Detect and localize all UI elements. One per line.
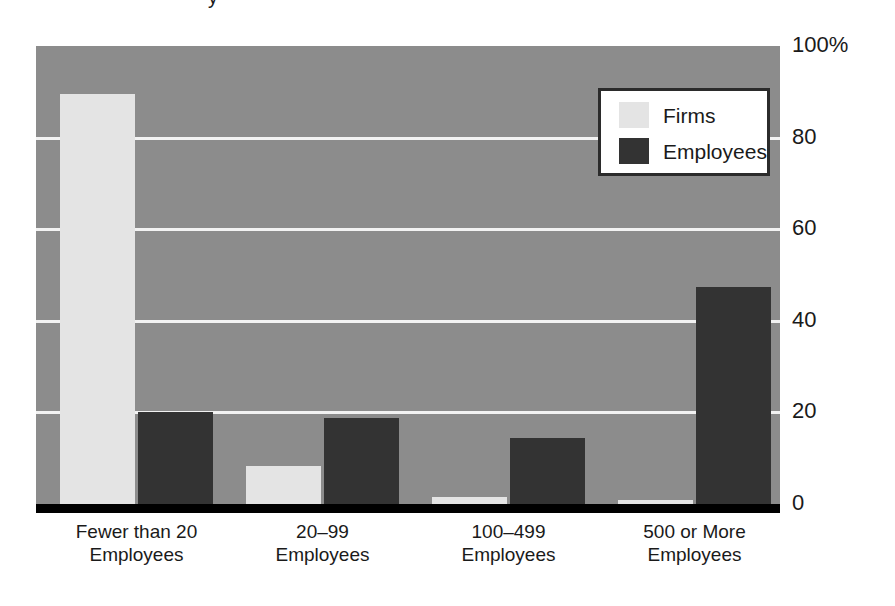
bar-firms-group-2 [246, 466, 321, 504]
bar-chart-figure: y 020406080100% Fewer than 20Employees20… [0, 0, 895, 606]
y-tick-label-0: 0 [792, 492, 804, 514]
cropped-title-remnant: y [0, 0, 895, 14]
gridline-60 [36, 228, 780, 231]
y-tick-label-80: 80 [792, 126, 816, 148]
y-tick-label-100: 100% [792, 34, 848, 56]
bar-employees-group-2 [324, 418, 399, 504]
legend-swatch-firms [619, 102, 649, 128]
x-category-label-1-line-1: Fewer than 20 [44, 520, 230, 543]
legend-label-employees: Employees [663, 141, 767, 162]
y-tick-label-40: 40 [792, 309, 816, 331]
x-axis-line [36, 504, 780, 513]
legend-swatch-employees [619, 138, 649, 164]
legend-label-firms: Firms [663, 105, 715, 126]
bar-employees-group-1 [138, 412, 213, 504]
bar-employees-group-3 [510, 438, 585, 504]
x-category-label-3-line-2: Employees [416, 543, 602, 566]
x-category-label-2-line-2: Employees [230, 543, 416, 566]
x-category-label-4-line-1: 500 or More [602, 520, 788, 543]
bar-firms-group-1 [60, 94, 135, 504]
x-category-label-2: 20–99Employees [230, 520, 416, 566]
x-category-label-3-line-1: 100–499 [416, 520, 602, 543]
x-category-label-4: 500 or MoreEmployees [602, 520, 788, 566]
chart-legend: Firms Employees [598, 88, 770, 176]
legend-entry-employees: Employees [619, 137, 767, 165]
x-category-label-1: Fewer than 20Employees [44, 520, 230, 566]
y-tick-label-60: 60 [792, 217, 816, 239]
x-category-label-4-line-2: Employees [602, 543, 788, 566]
gridline-40 [36, 320, 780, 323]
bar-firms-group-3 [432, 497, 507, 504]
x-category-label-1-line-2: Employees [44, 543, 230, 566]
bar-employees-group-4 [696, 287, 771, 504]
x-category-label-2-line-1: 20–99 [230, 520, 416, 543]
y-tick-label-20: 20 [792, 400, 816, 422]
x-category-label-3: 100–499Employees [416, 520, 602, 566]
legend-entry-firms: Firms [619, 101, 715, 129]
